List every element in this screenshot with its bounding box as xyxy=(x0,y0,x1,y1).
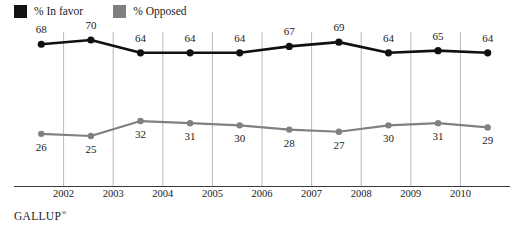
series-line-opposed xyxy=(41,121,487,136)
data-label-opposed: 32 xyxy=(135,128,146,140)
data-point-marker xyxy=(137,118,143,124)
data-label-opposed: 28 xyxy=(284,137,295,149)
series-line-in-favor xyxy=(41,40,487,53)
data-point-marker xyxy=(434,47,441,54)
data-point-marker xyxy=(187,120,193,126)
data-point-marker xyxy=(286,43,293,50)
data-point-marker xyxy=(336,129,342,135)
data-label-in-favor: 69 xyxy=(333,21,344,33)
x-axis-line xyxy=(14,186,510,187)
data-point-marker xyxy=(335,39,342,46)
data-label-in-favor: 64 xyxy=(185,32,196,44)
gallup-line-chart: % In favor % Opposed 6870646464676964656… xyxy=(0,0,525,233)
data-label-in-favor: 64 xyxy=(135,32,146,44)
data-point-marker xyxy=(236,122,242,128)
data-point-marker xyxy=(137,49,144,56)
data-point-marker xyxy=(286,126,292,132)
legend-label-in-favor: % In favor xyxy=(34,5,83,18)
data-label-in-favor: 64 xyxy=(234,32,245,44)
data-label-opposed: 31 xyxy=(185,130,196,142)
data-label-opposed: 25 xyxy=(85,143,96,155)
legend-swatch-opposed-icon xyxy=(113,5,126,18)
registered-mark-icon: ® xyxy=(61,209,67,217)
data-point-marker xyxy=(484,49,491,56)
source-name: GALLUP xyxy=(14,210,61,222)
data-point-marker xyxy=(38,131,44,137)
data-label-in-favor: 64 xyxy=(482,32,493,44)
data-label-opposed: 29 xyxy=(482,134,493,146)
data-point-marker xyxy=(186,49,193,56)
x-tick-label: 2003 xyxy=(103,188,124,199)
legend-item-in-favor: % In favor xyxy=(14,5,83,18)
data-point-marker xyxy=(385,122,391,128)
data-point-marker xyxy=(38,41,45,48)
x-tick-label: 2002 xyxy=(53,188,74,199)
x-tick-label: 2010 xyxy=(450,188,471,199)
x-tick-label: 2009 xyxy=(400,188,421,199)
source-attribution: GALLUP® xyxy=(14,209,67,222)
data-point-marker xyxy=(385,49,392,56)
data-label-in-favor: 70 xyxy=(85,19,96,31)
data-label-opposed: 26 xyxy=(36,141,47,153)
data-point-marker xyxy=(88,133,94,139)
legend-item-opposed: % Opposed xyxy=(113,5,186,18)
x-tick-label: 2008 xyxy=(351,188,372,199)
data-point-marker xyxy=(484,124,490,130)
x-tick-label: 2007 xyxy=(301,188,322,199)
data-label-in-favor: 64 xyxy=(383,32,394,44)
x-tick-label: 2006 xyxy=(252,188,273,199)
x-tick-label: 2004 xyxy=(152,188,173,199)
data-label-in-favor: 65 xyxy=(433,30,444,42)
data-label-opposed: 30 xyxy=(383,132,394,144)
plot-svg xyxy=(0,24,525,186)
legend-label-opposed: % Opposed xyxy=(133,5,186,18)
data-point-marker xyxy=(87,36,94,43)
legend-swatch-in-favor-icon xyxy=(14,5,27,18)
data-label-in-favor: 68 xyxy=(36,23,47,35)
plot-area xyxy=(0,24,525,186)
data-point-marker xyxy=(435,120,441,126)
data-label-opposed: 27 xyxy=(333,139,344,151)
x-tick-label: 2005 xyxy=(202,188,223,199)
data-label-opposed: 30 xyxy=(234,132,245,144)
data-point-marker xyxy=(236,49,243,56)
x-axis-tick-labels: 200220032004200520062007200820092010 xyxy=(0,188,525,204)
chart-legend: % In favor % Opposed xyxy=(14,5,217,18)
data-label-in-favor: 67 xyxy=(284,25,295,37)
data-label-opposed: 31 xyxy=(433,130,444,142)
